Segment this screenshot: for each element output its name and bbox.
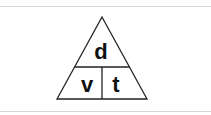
- bottom-divider: [0, 111, 211, 112]
- label-time: t: [112, 72, 120, 97]
- label-velocity: v: [81, 72, 94, 97]
- formula-triangle: d v t: [0, 0, 211, 115]
- label-distance: d: [94, 39, 107, 64]
